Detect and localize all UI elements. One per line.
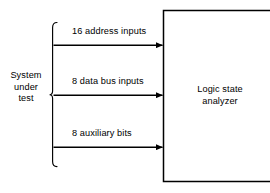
diagram-canvas: System under test 16 address inputs 8 da…	[0, 0, 270, 193]
signal-label-data-bus: 8 data bus inputs	[72, 76, 144, 88]
logic-state-analyzer-line-1: Logic state	[172, 84, 268, 96]
system-under-test-line-1: System	[0, 70, 52, 82]
system-under-test-line-2: under	[0, 82, 52, 94]
signal-label-address: 16 address inputs	[72, 26, 146, 38]
signal-label-auxiliary: 8 auxiliary bits	[72, 128, 132, 140]
logic-state-analyzer-line-2: analyzer	[172, 96, 268, 108]
system-under-test-line-3: test	[0, 93, 52, 105]
system-under-test-label: System under test	[0, 70, 52, 105]
logic-state-analyzer-label: Logic state analyzer	[172, 84, 268, 107]
